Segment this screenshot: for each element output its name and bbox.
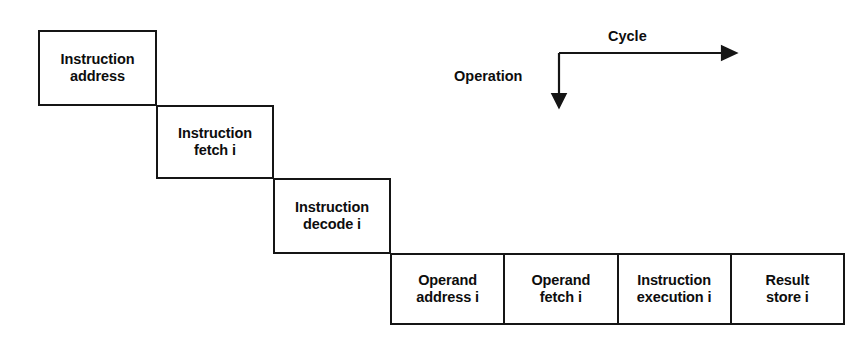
- stage-box-instruction-decode: Instruction decode i: [273, 178, 391, 254]
- row-label-operand-address: Operand address i: [412, 272, 483, 306]
- row-cell-instruction-execution: Instruction execution i: [619, 255, 732, 323]
- axis-label-cycle: Cycle: [608, 28, 647, 44]
- row-cell-result-store: Result store i: [732, 255, 843, 323]
- row-cell-operand-address: Operand address i: [392, 255, 505, 323]
- stage-label-instruction-fetch: Instruction fetch i: [174, 125, 256, 159]
- row-cell-operand-fetch: Operand fetch i: [505, 255, 618, 323]
- axis-label-operation: Operation: [454, 68, 522, 84]
- pipeline-diagram: Instruction address Instruction fetch i …: [0, 0, 860, 354]
- axes-legend: Cycle Operation: [450, 14, 750, 124]
- pipeline-bottom-row: Operand address i Operand fetch i Instru…: [390, 253, 845, 325]
- arrow-down-icon: [553, 94, 566, 107]
- stage-box-instruction-address: Instruction address: [38, 30, 157, 106]
- row-label-instruction-execution: Instruction execution i: [633, 272, 716, 306]
- stage-box-instruction-fetch: Instruction fetch i: [156, 105, 274, 179]
- row-label-result-store: Result store i: [762, 272, 814, 306]
- row-label-operand-fetch: Operand fetch i: [527, 272, 594, 306]
- stage-label-instruction-decode: Instruction decode i: [291, 199, 373, 233]
- stage-label-instruction-address: Instruction address: [57, 51, 139, 85]
- arrow-right-icon: [722, 47, 736, 60]
